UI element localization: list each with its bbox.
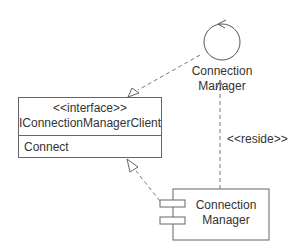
interface-operations: Connect: [19, 136, 161, 159]
control-label-line2: Manager: [187, 79, 257, 94]
interface-stereotype: <<interface>>: [19, 101, 161, 116]
interface-class-box[interactable]: <<interface>> IConnectionManagerClient C…: [18, 97, 162, 158]
interface-name: IConnectionManagerClient: [19, 116, 161, 131]
reside-label: <<reside>>: [227, 132, 288, 147]
component-label: Connection Manager: [186, 198, 266, 228]
operation-connect: Connect: [24, 140, 156, 155]
realization-arrow-component: [127, 159, 160, 201]
component-label-line2: Manager: [186, 213, 266, 228]
control-label: Connection Manager: [187, 64, 257, 94]
control-label-line1: Connection: [187, 64, 257, 79]
reside-dependency-arrow: [216, 80, 224, 189]
control-icon: [204, 20, 240, 60]
interface-header: <<interface>> IConnectionManagerClient: [19, 98, 161, 136]
component-label-line1: Connection: [186, 198, 266, 213]
